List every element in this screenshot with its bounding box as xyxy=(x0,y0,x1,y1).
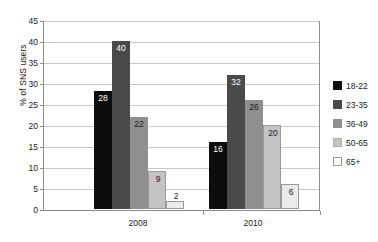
legend-item-18-22[interactable]: 18-22 xyxy=(333,76,368,95)
bar-18-22-2010[interactable]: 16 xyxy=(209,142,227,209)
legend-label: 36-49 xyxy=(346,119,368,129)
bar-18-22-2008[interactable]: 28 xyxy=(94,91,112,209)
y-axis-tick-label: 5 xyxy=(12,184,38,194)
x-axis-tick-mark xyxy=(320,211,321,215)
bar-36-49-2008[interactable]: 22 xyxy=(130,117,148,209)
bar-23-35-2008[interactable]: 40 xyxy=(112,41,130,209)
bar-50-65-2008[interactable]: 9 xyxy=(148,171,166,209)
y-axis-tick-label: 20 xyxy=(12,121,38,131)
y-axis-tick-label: 35 xyxy=(12,58,38,68)
x-axis-tick-mark xyxy=(203,211,204,215)
legend-label: 23-35 xyxy=(346,100,368,110)
legend-item-23-35[interactable]: 23-35 xyxy=(333,95,368,114)
bar-value-label: 9 xyxy=(149,174,167,184)
legend-swatch-icon xyxy=(333,81,342,90)
bar-value-label: 16 xyxy=(209,144,227,154)
bar-slot: 6 xyxy=(281,20,299,209)
bar-value-label: 28 xyxy=(94,93,112,103)
x-axis-category-label-2008: 2008 xyxy=(93,218,183,228)
bar-slot: 32 xyxy=(227,20,245,209)
legend-swatch-icon xyxy=(333,157,342,166)
bar-value-label: 26 xyxy=(245,102,263,112)
bar-slot: 2 xyxy=(166,20,184,209)
bar-65+-2010[interactable]: 6 xyxy=(281,184,299,209)
bar-23-35-2010[interactable]: 32 xyxy=(227,75,245,209)
legend-item-36-49[interactable]: 36-49 xyxy=(333,114,368,133)
bar-group-2008: 28402292 xyxy=(94,20,184,209)
bar-group-2010: 163226206 xyxy=(209,20,299,209)
bar-slot: 40 xyxy=(112,20,130,209)
plot-area: 28402292163226206 xyxy=(43,21,320,211)
legend-swatch-icon xyxy=(333,100,342,109)
bar-chart: % of SNS users 051015202530354045 284022… xyxy=(0,0,378,242)
bar-value-label: 2 xyxy=(167,191,185,201)
bar-36-49-2010[interactable]: 26 xyxy=(245,100,263,209)
y-axis-tick-label: 0 xyxy=(12,205,38,215)
bar-50-65-2010[interactable]: 20 xyxy=(263,125,281,209)
y-axis-tick-label: 25 xyxy=(12,100,38,110)
legend-label: 18-22 xyxy=(346,81,368,91)
bar-slot: 20 xyxy=(263,20,281,209)
bar-slot: 9 xyxy=(148,20,166,209)
x-axis-category-label-2010: 2010 xyxy=(208,218,298,228)
legend-label: 50-65 xyxy=(346,138,368,148)
y-axis-tick-label: 30 xyxy=(12,79,38,89)
legend-item-50-65[interactable]: 50-65 xyxy=(333,133,368,152)
bar-slot: 22 xyxy=(130,20,148,209)
bar-slot: 26 xyxy=(245,20,263,209)
legend-swatch-icon xyxy=(333,138,342,147)
bar-value-label: 22 xyxy=(130,119,148,129)
y-axis-tick-label: 15 xyxy=(12,142,38,152)
bar-slot: 16 xyxy=(209,20,227,209)
y-axis-tick-label: 10 xyxy=(12,163,38,173)
legend-swatch-icon xyxy=(333,119,342,128)
legend-item-65+[interactable]: 65+ xyxy=(333,152,368,171)
bar-value-label: 40 xyxy=(112,43,130,53)
bar-65+-2008[interactable]: 2 xyxy=(166,201,184,209)
y-axis-tick-label: 40 xyxy=(12,37,38,47)
bar-value-label: 32 xyxy=(227,77,245,87)
bar-value-label: 20 xyxy=(264,128,282,138)
bar-value-label: 6 xyxy=(282,187,300,197)
y-axis-tick-label: 45 xyxy=(12,16,38,26)
legend-label: 65+ xyxy=(346,157,360,167)
bar-slot: 28 xyxy=(94,20,112,209)
legend: 18-2223-3536-4950-6565+ xyxy=(333,76,368,171)
